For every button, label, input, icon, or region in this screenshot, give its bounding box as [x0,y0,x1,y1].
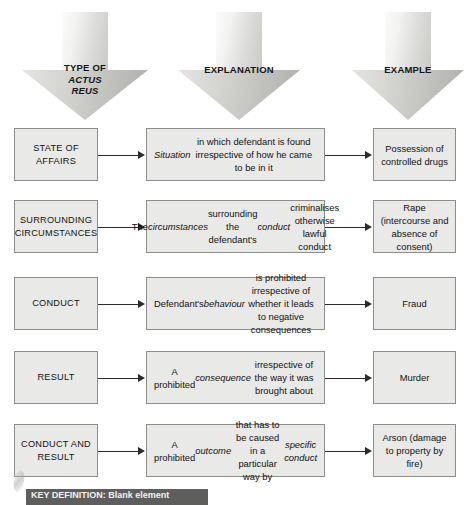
connector-arrowhead-row-1-left [138,151,145,159]
connector-line-row-4-right [325,378,366,379]
connector-arrowhead-row-4-left [138,374,145,382]
example-box-row-5: Arson (damage to property by fire) [373,424,456,477]
connector-arrowhead-row-2-right [365,223,372,231]
column-header-example: EXAMPLE [352,12,464,120]
connector-line-row-1-right [325,155,366,156]
category-box-row-3: CONDUCT [14,277,98,330]
connector-line-row-5-right [325,451,366,452]
connector-arrowhead-row-4-right [365,374,372,382]
connector-line-row-5-left [98,451,139,452]
connector-arrowhead-row-5-right [365,447,372,455]
header-line-2: ACTUS [22,74,148,86]
category-box-row-2: SURROUNDING CIRCUMSTANCES [14,200,98,253]
connector-arrowhead-row-5-left [138,447,145,455]
category-box-row-1: STATE OF AFFAIRS [14,128,98,181]
example-box-row-4: Murder [373,351,456,404]
column-header-type-of-actus-reus: TYPE OF ACTUS REUS [22,12,148,120]
connector-arrowhead-row-1-right [365,151,372,159]
example-box-row-3: Fraud [373,277,456,330]
connector-line-row-2-right [325,227,366,228]
explanation-box-row-5: A prohibited outcome that has to be caus… [146,424,325,477]
connector-arrowhead-row-3-left [138,300,145,308]
explanation-box-row-1: Situation in which defendant is found ir… [146,128,325,181]
connector-line-row-3-left [98,304,139,305]
connector-arrowhead-row-3-right [365,300,372,308]
connector-line-row-1-left [98,155,139,156]
header-line-3: REUS [22,85,148,97]
column-header-label-type: TYPE OF ACTUS REUS [22,62,148,97]
down-arrow-icon [352,70,464,120]
example-box-row-1: Possession of controlled drugs [373,128,456,181]
explanation-box-row-2: The circumstances surrounding the defend… [146,200,325,253]
explanation-box-row-3: Defendant's behaviour is prohibited irre… [146,277,325,330]
connector-line-row-3-right [325,304,366,305]
column-header-label-example: EXAMPLE [352,64,464,76]
column-header-explanation: EXPLANATION [178,12,300,120]
down-arrow-icon [178,70,300,120]
example-box-row-2: Rape (intercourse and absence of consent… [373,200,456,253]
category-box-row-5: CONDUCT AND RESULT [14,424,98,477]
explanation-box-row-4: A prohibited consequence irrespective of… [146,351,325,404]
header-line-1: TYPE OF [22,62,148,74]
key-definition-banner-label: KEY DEFINITION: Blank element [31,490,169,500]
header-line-1: EXAMPLE [352,64,464,76]
key-definition-banner: KEY DEFINITION: Blank element [26,489,208,505]
category-box-row-4: RESULT [14,351,98,404]
header-line-1: EXPLANATION [178,64,300,76]
column-header-label-explanation: EXPLANATION [178,64,300,76]
connector-line-row-4-left [98,378,139,379]
